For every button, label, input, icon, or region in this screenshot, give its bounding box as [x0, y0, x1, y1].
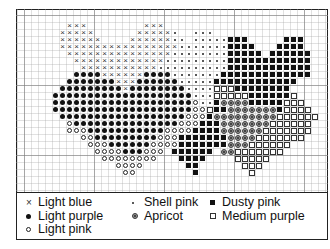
legend-label: Light blue [38, 196, 92, 209]
stitch-dusty-pink [255, 92, 262, 99]
stitch-medium-purple [248, 148, 255, 155]
stitch-dusty-pink [276, 99, 283, 106]
stitch-light-purple [87, 127, 94, 134]
stitch-medium-purple [269, 120, 276, 127]
legend: Light blue Light purple Light pink Shell… [26, 196, 326, 238]
stitch-light-purple [164, 113, 171, 120]
stitch-dusty-pink [262, 57, 269, 64]
stitch-light-purple [73, 106, 80, 113]
stitch-light-purple [157, 127, 164, 134]
stitch-shell-pink [206, 64, 213, 71]
stitch-medium-purple [304, 106, 311, 113]
stitch-medium-purple [276, 141, 283, 148]
stitch-medium-purple [220, 85, 227, 92]
stitch-light-purple [115, 134, 122, 141]
stitch-light-blue [136, 71, 143, 78]
stitch-light-purple [80, 106, 87, 113]
stitch-light-purple [136, 141, 143, 148]
stitch-medium-purple [269, 134, 276, 141]
legend-column-2: Shell pink Apricot [132, 196, 198, 223]
stitch-dusty-pink [227, 78, 234, 85]
stitch-dusty-pink [269, 50, 276, 57]
stitch-light-purple [129, 113, 136, 120]
stitch-light-purple [108, 106, 115, 113]
stitch-dusty-pink [276, 64, 283, 71]
stitch-light-purple [143, 113, 150, 120]
legend-label: Dusty pink [222, 196, 280, 209]
stitch-light-purple [164, 71, 171, 78]
stitch-medium-purple [255, 155, 262, 162]
stitch-shell-pink [192, 57, 199, 64]
stitch-dusty-pink [234, 64, 241, 71]
stitch-light-purple [66, 99, 73, 106]
stitch-dusty-pink [220, 141, 227, 148]
stitch-dusty-pink [248, 43, 255, 50]
stitch-light-pink [87, 141, 94, 148]
stitch-dusty-pink [234, 57, 241, 64]
stitch-dusty-pink [199, 155, 206, 162]
stitch-shell-pink [213, 64, 220, 71]
stitch-medium-purple [262, 148, 269, 155]
stitch-light-pink [143, 155, 150, 162]
stitch-dusty-pink [241, 43, 248, 50]
stitch-dusty-pink [241, 57, 248, 64]
stitch-light-pink [94, 141, 101, 148]
stitch-light-pink [192, 120, 199, 127]
stitch-light-purple [136, 148, 143, 155]
stitch-light-pink [129, 169, 136, 176]
stitch-light-purple [73, 71, 80, 78]
stitch-dusty-pink [213, 120, 220, 127]
stitch-medium-purple [255, 134, 262, 141]
stitch-light-blue [150, 64, 157, 71]
stitch-light-pink [122, 155, 129, 162]
stitch-medium-purple [276, 134, 283, 141]
stitch-dusty-pink [206, 141, 213, 148]
stitch-medium-purple [304, 113, 311, 120]
stitch-light-purple [115, 106, 122, 113]
stitch-light-pink [150, 155, 157, 162]
stitch-light-purple [66, 78, 73, 85]
stitch-light-purple [178, 85, 185, 92]
stitch-light-blue [66, 50, 73, 57]
stitch-light-purple [80, 120, 87, 127]
stitch-light-purple [171, 113, 178, 120]
stitch-light-purple [108, 92, 115, 99]
stitch-dusty-pink [206, 148, 213, 155]
stitch-apricot [255, 113, 262, 120]
stitch-shell-pink [199, 71, 206, 78]
stitch-light-purple [80, 92, 87, 99]
stitch-shell-pink [178, 36, 185, 43]
stitch-light-blue [171, 43, 178, 50]
stitch-light-purple [136, 78, 143, 85]
stitch-shell-pink [199, 29, 206, 36]
stitch-dusty-pink [171, 148, 178, 155]
stitch-light-purple [129, 106, 136, 113]
stitch-light-purple [143, 127, 150, 134]
stitch-light-purple [122, 127, 129, 134]
stitch-light-pink [80, 127, 87, 134]
stitch-light-pink [164, 134, 171, 141]
stitch-shell-pink [206, 92, 213, 99]
legend-item-dusty-pink: Dusty pink [210, 196, 305, 210]
stitch-light-purple [87, 71, 94, 78]
stitch-dusty-pink [199, 141, 206, 148]
stitch-shell-pink [192, 64, 199, 71]
stitch-medium-purple [276, 148, 283, 155]
stitch-medium-purple [290, 106, 297, 113]
stitch-light-blue [94, 64, 101, 71]
stitch-medium-purple [283, 134, 290, 141]
stitch-medium-purple [311, 113, 318, 120]
stitch-light-pink [136, 155, 143, 162]
stitch-dusty-pink [297, 43, 304, 50]
stitch-light-blue [157, 57, 164, 64]
stitch-dusty-pink [192, 134, 199, 141]
legend-item-shell-pink: Shell pink [132, 196, 198, 210]
stitch-light-purple [115, 85, 122, 92]
stitch-dusty-pink [297, 57, 304, 64]
stitch-medium-purple [283, 127, 290, 134]
stitch-medium-purple [290, 120, 297, 127]
stitch-light-purple [164, 106, 171, 113]
stitch-apricot [248, 127, 255, 134]
stitch-light-purple [66, 106, 73, 113]
stitch-dusty-pink [227, 57, 234, 64]
